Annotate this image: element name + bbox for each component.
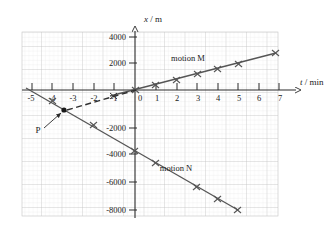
grid-paper xyxy=(22,32,278,216)
x-tick-label: 6 xyxy=(257,93,261,103)
motion-graph-figure: -5 -4 -3 -2 -1 0 1 2 3 4 5 6 7 4000 2000… xyxy=(0,0,333,225)
x-tick-label: 2 xyxy=(175,93,179,103)
x-tick-label: 1 xyxy=(155,93,159,103)
x-tick-label: 3 xyxy=(196,93,200,103)
x-tick-label: -3 xyxy=(69,93,76,103)
y-tick-label: -2000 xyxy=(106,123,126,133)
motion-n-label: motion N xyxy=(160,163,192,173)
chart-svg: -5 -4 -3 -2 -1 0 1 2 3 4 5 6 7 4000 2000… xyxy=(0,0,333,225)
point-p-label: P xyxy=(35,125,40,135)
x-tick-label: -5 xyxy=(27,93,34,103)
x-axis-title: t / min xyxy=(300,77,324,87)
x-tick-label: 7 xyxy=(278,93,282,103)
motion-m-label: motion M xyxy=(171,53,205,63)
point-p-marker xyxy=(61,107,66,112)
x-tick-label-origin: 0 xyxy=(138,93,142,103)
y-axis-title: x / m xyxy=(143,14,162,24)
x-tick-label: 5 xyxy=(237,93,241,103)
y-tick-label: -6000 xyxy=(106,177,126,187)
y-tick-label: -8000 xyxy=(106,205,126,215)
y-tick-label: -4000 xyxy=(106,149,126,159)
y-axis-title-unit: / m xyxy=(148,14,162,24)
y-tick-label: 4000 xyxy=(109,32,126,42)
x-axis-title-unit: / min xyxy=(303,77,325,87)
y-tick-label: 2000 xyxy=(109,58,126,68)
